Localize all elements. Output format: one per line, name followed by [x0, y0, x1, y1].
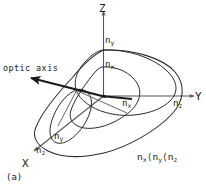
- n-y-on-z-axis: ny: [105, 36, 114, 45]
- n-y-lower-inner: ny: [54, 132, 63, 141]
- optic-axis-label: optic axis: [3, 64, 58, 73]
- inequality-n2-sub: y: [158, 156, 162, 164]
- inequality-n1-sub: x: [143, 156, 147, 164]
- axis-lines: [34, 11, 194, 151]
- figure-caption: (a): [6, 173, 22, 182]
- x-axis-label: X: [22, 158, 29, 169]
- y-axis-label: Y: [195, 91, 202, 102]
- x-axis-line: [34, 96, 104, 151]
- inequality-n3: n: [168, 151, 174, 162]
- n-x-on-inner-ellipse-sub: x: [110, 63, 114, 71]
- n-z-on-y-axis-sub: z: [178, 102, 182, 110]
- origin-point: [102, 94, 105, 97]
- n-y-on-z-axis-sub: y: [110, 39, 114, 47]
- index-inequality: nx⟨ny⟨nz: [137, 152, 177, 162]
- n-x-on-y-axis: nx: [122, 99, 131, 108]
- inequality-n1: n: [137, 151, 143, 162]
- n-z-on-x-axis: nz: [36, 146, 45, 155]
- n-z-on-y-axis: nz: [173, 99, 182, 108]
- z-axis-label: Z: [99, 3, 106, 14]
- n-x-on-y-axis-sub: x: [127, 102, 131, 110]
- index-ellipsoid-figure: Z Y X ny nx nx nz ny nz optic axis nx⟨ny…: [0, 0, 206, 187]
- n-z-on-x-axis-sub: z: [41, 149, 45, 157]
- n-x-on-inner-ellipse: nx: [105, 60, 114, 69]
- n-y-lower-inner-sub: y: [59, 135, 63, 143]
- inequality-n3-sub: z: [174, 156, 178, 164]
